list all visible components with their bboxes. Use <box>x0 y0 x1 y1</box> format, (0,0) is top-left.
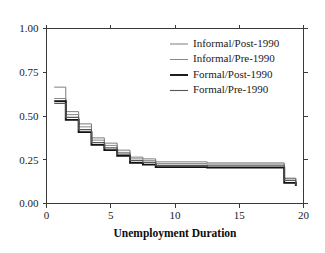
y-tick-label: 0.25 <box>19 154 39 166</box>
x-tick-label: 15 <box>234 209 246 221</box>
legend-item: Informal/Pre-1990 <box>170 52 275 64</box>
legend-label: Informal/Post-1990 <box>193 37 280 49</box>
series-line <box>54 103 296 185</box>
y-tick-label: 0.50 <box>19 110 39 122</box>
y-tick-label: 0.75 <box>19 66 39 78</box>
legend-item: Informal/Post-1990 <box>170 37 280 49</box>
x-tick-label: 5 <box>108 209 114 221</box>
series-line <box>54 87 296 184</box>
legend-item: Formal/Post-1990 <box>170 68 273 80</box>
legend-label: Informal/Pre-1990 <box>193 52 275 64</box>
survival-plot: 0.000.250.500.751.0005101520Unemployment… <box>0 0 325 253</box>
x-tick-label: 10 <box>170 209 182 221</box>
legend-item: Formal/Pre-1990 <box>170 83 269 95</box>
y-tick-label: 1.00 <box>19 22 39 34</box>
y-tick-label: 0.00 <box>19 197 39 209</box>
legend: Informal/Post-1990Informal/Pre-1990Forma… <box>170 37 280 96</box>
legend-label: Formal/Post-1990 <box>193 68 273 80</box>
series-line <box>54 99 296 185</box>
series-line <box>54 101 296 186</box>
legend-label: Formal/Pre-1990 <box>193 83 269 95</box>
series-group <box>54 87 296 186</box>
y-axis: 0.000.250.500.751.00 <box>19 22 307 209</box>
x-tick-label: 0 <box>44 209 50 221</box>
chart-figure: 0.000.250.500.751.0005101520Unemployment… <box>0 0 325 253</box>
x-axis-title: Unemployment Duration <box>114 227 238 240</box>
x-tick-label: 20 <box>298 209 310 221</box>
